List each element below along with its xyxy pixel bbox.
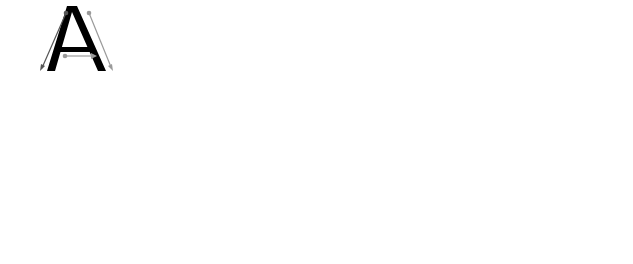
handwriting-worksheet	[0, 0, 633, 264]
letter-a-crossbar	[56, 47, 90, 52]
model-letter-a	[40, 6, 113, 71]
letter-a-glyph	[47, 6, 106, 71]
stroke-arrow-crossbar-icon	[63, 53, 97, 59]
